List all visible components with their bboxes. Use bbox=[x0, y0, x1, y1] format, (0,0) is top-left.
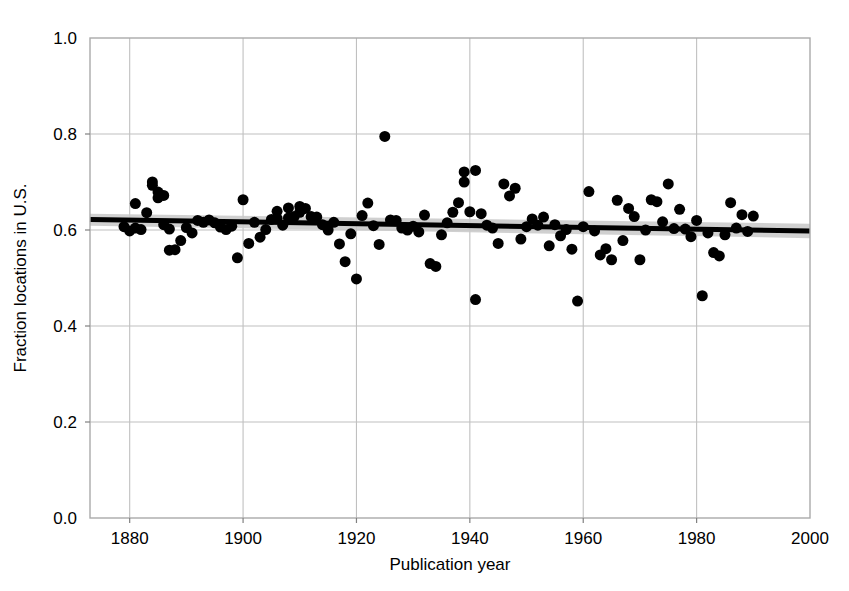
scatter-point bbox=[600, 243, 611, 254]
scatter-point bbox=[374, 239, 385, 250]
scatter-plot: 1880190019201940196019802000 0.00.20.40.… bbox=[0, 0, 849, 591]
scatter-point bbox=[493, 238, 504, 249]
scatter-point bbox=[260, 224, 271, 235]
scatter-point bbox=[170, 244, 181, 255]
y-tick-label: 1.0 bbox=[53, 29, 77, 48]
scatter-point bbox=[413, 226, 424, 237]
scatter-point bbox=[634, 254, 645, 265]
x-tick-label: 1900 bbox=[224, 529, 262, 548]
scatter-point bbox=[498, 178, 509, 189]
scatter-point bbox=[629, 211, 640, 222]
scatter-point bbox=[436, 229, 447, 240]
scatter-point bbox=[538, 212, 549, 223]
scatter-point bbox=[515, 234, 526, 245]
scatter-point bbox=[351, 273, 362, 284]
scatter-point bbox=[187, 227, 198, 238]
y-tick-label: 0.4 bbox=[53, 317, 77, 336]
scatter-point bbox=[447, 207, 458, 218]
scatter-point bbox=[470, 165, 481, 176]
scatter-point bbox=[572, 296, 583, 307]
x-tick-label: 1940 bbox=[451, 529, 489, 548]
scatter-point bbox=[453, 197, 464, 208]
y-tick-label: 0.6 bbox=[53, 221, 77, 240]
scatter-point bbox=[362, 198, 373, 209]
scatter-point bbox=[175, 235, 186, 246]
scatter-point bbox=[657, 216, 668, 227]
scatter-point bbox=[544, 240, 555, 251]
scatter-point bbox=[651, 196, 662, 207]
scatter-point bbox=[612, 195, 623, 206]
scatter-point bbox=[691, 215, 702, 226]
scatter-point bbox=[736, 209, 747, 220]
scatter-point bbox=[685, 231, 696, 242]
scatter-point bbox=[464, 206, 475, 217]
scatter-point bbox=[583, 186, 594, 197]
x-tick-label: 2000 bbox=[791, 529, 829, 548]
scatter-point bbox=[470, 294, 481, 305]
x-tick-label: 1920 bbox=[338, 529, 376, 548]
scatter-point bbox=[748, 211, 759, 222]
x-tick-label: 1960 bbox=[564, 529, 602, 548]
scatter-point bbox=[232, 252, 243, 263]
scatter-point bbox=[697, 290, 708, 301]
scatter-point bbox=[238, 194, 249, 205]
figure-background bbox=[0, 0, 849, 591]
scatter-point bbox=[379, 131, 390, 142]
x-tick-label: 1880 bbox=[111, 529, 149, 548]
scatter-point bbox=[419, 210, 430, 221]
scatter-point bbox=[243, 238, 254, 249]
scatter-point bbox=[357, 210, 368, 221]
scatter-point bbox=[430, 261, 441, 272]
scatter-point bbox=[714, 250, 725, 261]
y-axis-title: Fraction locations in U.S. bbox=[11, 184, 30, 373]
scatter-point bbox=[340, 256, 351, 267]
scatter-point bbox=[164, 224, 175, 235]
scatter-point bbox=[158, 190, 169, 201]
y-tick-label: 0.8 bbox=[53, 125, 77, 144]
scatter-point bbox=[476, 208, 487, 219]
scatter-point bbox=[141, 207, 152, 218]
scatter-point bbox=[510, 183, 521, 194]
scatter-point bbox=[130, 198, 141, 209]
scatter-point bbox=[459, 166, 470, 177]
scatter-point bbox=[136, 224, 147, 235]
scatter-point bbox=[663, 178, 674, 189]
scatter-point bbox=[617, 235, 628, 246]
scatter-point bbox=[606, 254, 617, 265]
scatter-point bbox=[566, 244, 577, 255]
scatter-point bbox=[674, 204, 685, 215]
scatter-point bbox=[334, 238, 345, 249]
y-tick-label: 0.2 bbox=[53, 413, 77, 432]
x-tick-label: 1980 bbox=[678, 529, 716, 548]
chart-figure: 1880190019201940196019802000 0.00.20.40.… bbox=[0, 0, 849, 591]
scatter-point bbox=[345, 228, 356, 239]
x-axis-title: Publication year bbox=[390, 555, 511, 574]
y-tick-label: 0.0 bbox=[53, 509, 77, 528]
scatter-point bbox=[459, 177, 470, 188]
scatter-point bbox=[725, 197, 736, 208]
